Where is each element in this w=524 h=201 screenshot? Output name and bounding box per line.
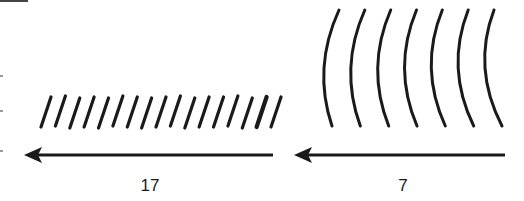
stroke-mark xyxy=(199,97,209,127)
panel-short-wavelength: 17 xyxy=(24,96,281,195)
wave-diagram: 17 7 xyxy=(0,0,524,201)
count-label-right: 7 xyxy=(398,176,407,195)
panel-long-wavelength: 7 xyxy=(294,10,505,195)
stroke-mark xyxy=(271,97,281,127)
arc-mark xyxy=(351,10,365,126)
count-label-left: 17 xyxy=(141,176,160,195)
stroke-mark xyxy=(142,98,152,128)
stroke-mark xyxy=(257,97,267,127)
right-arrow xyxy=(294,147,505,163)
arc-mark xyxy=(378,10,391,126)
stroke-mark xyxy=(185,98,195,128)
stroke-mark xyxy=(55,96,65,126)
stroke-mark xyxy=(242,98,252,128)
stroke-mark xyxy=(84,97,94,127)
arc-marks-group xyxy=(324,10,502,126)
left-arrow xyxy=(24,147,273,163)
stroke-mark xyxy=(170,96,180,126)
stroke-marks-group xyxy=(41,96,281,128)
stroke-mark xyxy=(70,98,80,128)
stroke-mark xyxy=(113,96,123,126)
arc-mark xyxy=(405,10,417,126)
stroke-mark xyxy=(214,97,224,127)
stroke-mark xyxy=(127,97,137,127)
stroke-mark xyxy=(99,98,109,128)
stroke-mark xyxy=(228,96,238,126)
stroke-mark xyxy=(41,97,51,127)
arc-mark xyxy=(431,10,445,126)
stroke-mark xyxy=(156,97,166,127)
arc-mark xyxy=(485,10,502,126)
arc-mark xyxy=(458,10,474,126)
arc-mark xyxy=(324,10,339,126)
